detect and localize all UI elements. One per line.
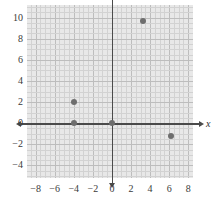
y-tick-label: 2 <box>18 97 23 107</box>
x-tick-label: −2 <box>88 184 99 194</box>
grid <box>27 5 193 178</box>
y-tick-label: 6 <box>18 55 23 65</box>
x-tick-label: 4 <box>148 184 153 194</box>
y-tick-label: 4 <box>18 76 23 86</box>
x-tick-label: −6 <box>49 184 60 194</box>
x-tick-label: −4 <box>68 184 79 194</box>
y-axis-line <box>112 0 113 183</box>
x-axis-label: x <box>206 118 210 129</box>
x-axis-right-arrow <box>199 121 204 127</box>
plot-area <box>27 5 193 178</box>
y-tick-label: −4 <box>12 160 23 170</box>
x-tick-label: −8 <box>30 184 41 194</box>
x-tick-label: 6 <box>167 184 172 194</box>
x-tick-label: 2 <box>128 184 133 194</box>
data-point <box>71 120 77 126</box>
x-tick-label: 0 <box>109 184 114 194</box>
x-tick-label: 8 <box>186 184 191 194</box>
y-tick-label: −2 <box>12 139 23 149</box>
data-point <box>168 133 174 139</box>
data-point <box>71 99 77 105</box>
y-tick-label: 0 <box>18 118 23 128</box>
scatter-plot-figure: −8−6−4−202468 −4−20246810 x <box>0 0 213 200</box>
y-tick-label: 10 <box>13 13 23 23</box>
data-point <box>109 120 115 126</box>
y-tick-label: 8 <box>18 34 23 44</box>
